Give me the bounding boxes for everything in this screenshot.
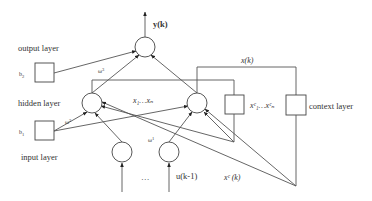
output-signal-label: y(k) xyxy=(153,19,168,29)
context2-to-hidden1-edge xyxy=(102,102,296,186)
w1-label: ω1 xyxy=(148,136,154,143)
output-neuron xyxy=(135,37,155,57)
b2-bias-box xyxy=(35,63,54,82)
input2-to-hidden2-edge xyxy=(169,112,192,142)
input-neuron-2 xyxy=(159,142,179,162)
w3-label: ω3 xyxy=(98,67,105,74)
output-layer-label: output layer xyxy=(18,43,59,53)
b2-to-output-edge xyxy=(54,51,136,73)
state-signal-label: x(k) xyxy=(240,56,254,65)
hidden-nodes-label: x₁…xₙ xyxy=(132,96,153,105)
hidden-neuron-1 xyxy=(82,93,102,113)
context-nodes-label: xᶜ₁…xᶜₙ xyxy=(249,101,274,110)
w2-label: ω2 xyxy=(65,118,71,125)
b1-bias-box xyxy=(35,121,54,140)
hidden-layer-label: hidden layer xyxy=(18,98,60,108)
context-signal-label: xᶜ (k) xyxy=(223,173,241,182)
input-ellipsis: … xyxy=(141,172,150,182)
b2-label: b2 xyxy=(19,71,24,79)
input1-to-hidden1-edge xyxy=(95,113,122,142)
input-layer-label: input layer xyxy=(21,152,58,162)
context1-to-hidden1-edge xyxy=(101,106,234,142)
elman-network-diagram: output layer hidden layer input layer co… xyxy=(0,0,372,201)
b1-label: b1 xyxy=(19,129,24,137)
context-box-1 xyxy=(225,95,244,114)
context2-to-hidden2-edge xyxy=(205,109,296,186)
state-feedback-inner-line xyxy=(92,80,234,95)
context-box-2 xyxy=(286,95,306,115)
hidden-neuron-2 xyxy=(187,93,207,113)
state-feedback-outer-line xyxy=(197,67,296,95)
input-neuron-1 xyxy=(112,142,132,162)
hidden2-to-output-edge xyxy=(151,55,197,93)
context-layer-label: context layer xyxy=(309,101,353,111)
input-signal-label: u(k-1) xyxy=(176,171,197,181)
